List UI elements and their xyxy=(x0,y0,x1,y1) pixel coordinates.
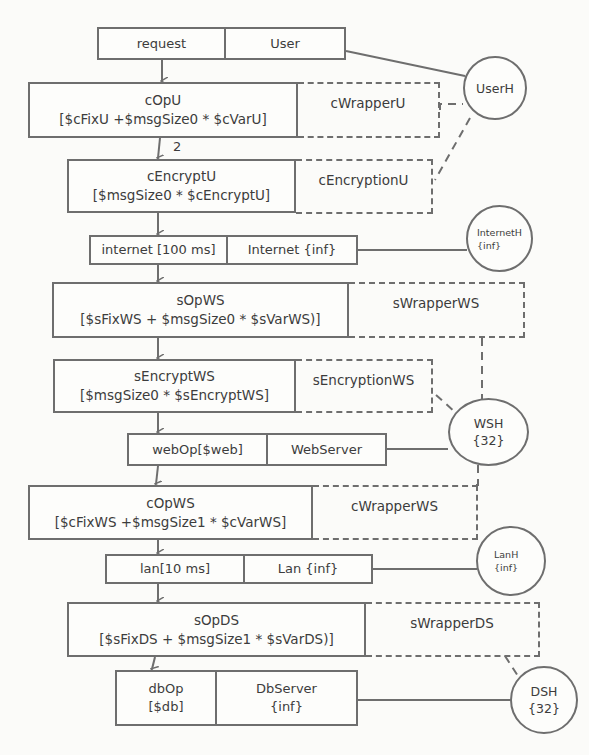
wrapper-sWrapperWS: sWrapperWS xyxy=(349,282,525,338)
activity-name: sOpWS xyxy=(176,291,224,310)
task-internet-box: internet [100 ms] Internet {inf} xyxy=(89,235,358,265)
wrapper-label: cWrapperU xyxy=(331,95,406,111)
wrapper-cWrapperU: cWrapperU xyxy=(298,82,440,138)
host-name: WSH xyxy=(474,415,504,432)
task-lan: Lan {inf} xyxy=(243,556,371,582)
task-db-box: dbOp [$db] DbServer {inf} xyxy=(115,670,358,726)
task-webserver: WebServer xyxy=(266,435,385,464)
activity-formula: [$cFixWS +$msgSize1 * $cVarWS] xyxy=(55,513,287,532)
activity-name: cOpU xyxy=(145,91,182,110)
dash-cwrapperws-to-wsh xyxy=(470,465,478,485)
host-UserH: UserH xyxy=(463,56,527,120)
task-user: User xyxy=(224,29,344,58)
activity-name: cEncryptU xyxy=(147,167,216,186)
activity-sOpWS: sOpWS [$sFixWS + $msgSize0 * $sVarWS)] xyxy=(52,282,349,338)
task-lan-box: lan[10 ms] Lan {inf} xyxy=(105,554,373,584)
dash-swrapperds-to-dsh xyxy=(505,656,518,676)
task-dbserver: DbServer {inf} xyxy=(215,672,356,724)
activity-formula: [$msgSize0 * $cEncryptU] xyxy=(93,186,270,205)
task-internet: Internet {inf} xyxy=(226,237,356,263)
entry-internet: internet [100 ms] xyxy=(91,237,226,263)
host-name: DSH xyxy=(531,683,558,700)
arrow-cOpU-to-cEncryptU xyxy=(158,138,160,158)
request-task-box: request User xyxy=(97,27,346,60)
entry-name: dbOp xyxy=(149,680,184,698)
dash-cwrapperu-to-userh xyxy=(440,104,463,110)
host-WSH: WSH {32} xyxy=(448,398,529,466)
activity-sOpDS: sOpDS [$sFixDS + $msgSize1 * $sVarDS)] xyxy=(67,602,366,657)
wrapper-label: sWrapperDS xyxy=(410,615,494,631)
activity-formula: [$msgSize0 * $sEncryptWS] xyxy=(80,386,269,405)
activity-formula: [$sFixWS + $msgSize0 * $sVarWS)] xyxy=(80,310,320,329)
arrow-sOpDS-to-dbOp xyxy=(152,657,155,669)
activity-cOpU: cOpU [$cFixU +$msgSize0 * $cVarU] xyxy=(28,82,298,138)
host-DSH: DSH {32} xyxy=(510,666,578,734)
dash-cencryptionu-to-userh xyxy=(435,118,470,180)
activity-formula: [$cFixU +$msgSize0 * $cVarU] xyxy=(59,110,266,129)
host-name: LanH xyxy=(494,548,518,561)
host-InternetH: InternetH {inf} xyxy=(466,205,533,272)
activity-cOpWS: cOpWS [$cFixWS +$msgSize1 * $cVarWS] xyxy=(28,485,313,540)
wrapper-label: cWrapperWS xyxy=(351,498,438,514)
host-name: InternetH xyxy=(477,226,522,239)
host-name: UserH xyxy=(476,80,514,97)
entry-dbOp: dbOp [$db] xyxy=(117,672,215,724)
line-user-to-userh xyxy=(346,51,465,76)
call-multiplicity-label: 2 xyxy=(173,139,181,154)
activity-name: sEncryptWS xyxy=(134,367,215,386)
wrapper-sWrapperDS: sWrapperDS xyxy=(366,602,540,657)
task-name: DbServer xyxy=(256,680,317,698)
dash-sencryptionws-to-wsh xyxy=(436,395,455,412)
entry-webOp: webOp[$web] xyxy=(129,435,266,464)
host-multiplicity: {inf} xyxy=(494,561,518,574)
task-multiplicity: {inf} xyxy=(270,698,303,716)
arrow-webOp-to-cOpWS xyxy=(156,466,158,484)
wrapper-cWrapperWS: cWrapperWS xyxy=(313,485,478,540)
entry-request: request xyxy=(99,29,224,58)
entry-demand: [$db] xyxy=(149,698,184,716)
wrapper-label: cEncryptionU xyxy=(319,172,409,188)
wrapper-sEncryptionWS: sEncryptionWS xyxy=(296,359,433,413)
host-multiplicity: {32} xyxy=(473,432,505,449)
entry-lan: lan[10 ms] xyxy=(107,556,243,582)
activity-name: sOpDS xyxy=(194,611,239,630)
activity-formula: [$sFixDS + $msgSize1 * $sVarDS)] xyxy=(99,630,333,649)
wrapper-cEncryptionU: cEncryptionU xyxy=(296,159,433,214)
activity-sEncryptWS: sEncryptWS [$msgSize0 * $sEncryptWS] xyxy=(53,359,296,413)
wrapper-label: sWrapperWS xyxy=(393,295,480,311)
host-LanH: LanH {inf} xyxy=(476,526,546,596)
wrapper-label: sEncryptionWS xyxy=(313,372,414,388)
activity-name: cOpWS xyxy=(146,494,195,513)
task-web-box: webOp[$web] WebServer xyxy=(127,433,387,466)
host-multiplicity: {32} xyxy=(528,700,560,717)
activity-cEncryptU: cEncryptU [$msgSize0 * $cEncryptU] xyxy=(67,159,296,213)
host-multiplicity: {inf} xyxy=(477,239,501,252)
